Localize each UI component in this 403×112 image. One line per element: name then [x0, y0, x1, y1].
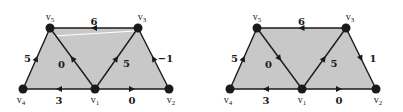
vertex-label-v4: v4	[17, 94, 26, 107]
edge-v1-v4: 3	[23, 86, 95, 106]
diagram-right: 6505130v1v2v3v4v5	[224, 11, 383, 107]
vertex-label-v2: v2	[374, 94, 383, 107]
edge-weight-label: 5	[331, 58, 338, 69]
edge-weight-label: 1	[370, 53, 377, 64]
vertex-label-v5: v5	[46, 11, 55, 24]
vertex-label-v5: v5	[253, 11, 262, 24]
vertex-label-v1: v1	[91, 94, 100, 107]
edge-v1-v2: 0	[302, 86, 376, 106]
edge-weight-label: 6	[298, 16, 305, 27]
vertex-v1	[91, 85, 100, 94]
vertex-v2	[372, 85, 381, 94]
edge-v1-v2: 0	[95, 86, 169, 106]
face-region	[230, 28, 376, 89]
vertex-label-v1: v1	[298, 94, 307, 107]
diagram-left: 6505−130v1v2v3v4v5	[17, 11, 176, 107]
vertex-v4	[19, 85, 28, 94]
edge-weight-label: 5	[24, 53, 31, 64]
edge-weight-label: 3	[263, 95, 270, 106]
edge-weight-label: 0	[58, 59, 65, 70]
edge-weight-label: 3	[56, 95, 63, 106]
vertex-label-v3: v3	[346, 11, 355, 24]
vertex-v5	[46, 24, 55, 33]
edge-weight-label: 0	[265, 59, 272, 70]
edge-weight-label: 0	[336, 95, 343, 106]
vertex-v3	[342, 24, 351, 33]
vertex-v4	[226, 85, 235, 94]
vertex-v1	[298, 85, 307, 94]
edge-weight-label: 0	[129, 95, 136, 106]
edge-weight-label: −1	[158, 53, 173, 64]
vertex-v2	[165, 85, 174, 94]
face-region	[23, 28, 169, 89]
vertex-v3	[134, 24, 143, 33]
edge-weight-label: 5	[231, 53, 238, 64]
edge-weight-label: 5	[123, 58, 130, 69]
vertex-label-v2: v2	[167, 94, 176, 107]
edge-v1-v4: 3	[230, 86, 302, 106]
vertex-v5	[253, 24, 262, 33]
vertex-label-v4: v4	[224, 94, 233, 107]
graph-diagrams: 6505−130v1v2v3v4v56505130v1v2v3v4v5	[0, 0, 403, 112]
vertex-label-v3: v3	[138, 11, 147, 24]
edge-weight-label: 6	[91, 16, 98, 27]
